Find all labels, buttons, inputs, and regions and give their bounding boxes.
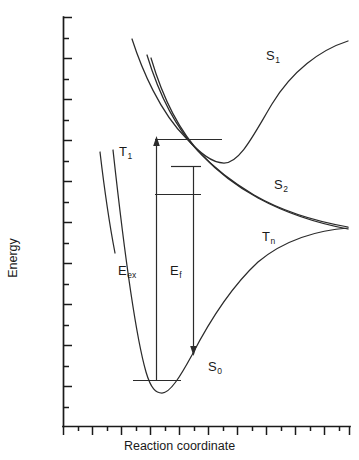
state-label-tn: Tn <box>262 230 275 243</box>
y-axis-label: Energy <box>6 238 20 278</box>
transition-label-eex: Eex <box>118 264 136 277</box>
arrow-eex-head <box>153 136 160 146</box>
curve-tn <box>151 58 348 229</box>
vibrational-levels-group <box>133 140 222 381</box>
arrow-ef-head <box>190 346 197 356</box>
energy-diagram-figure: S1 T1 S2 Tn S0 Eex Ef Energy Reaction co… <box>0 0 359 460</box>
curve-s0 <box>113 150 348 393</box>
transition-arrows-group <box>153 136 197 380</box>
curve-t1 <box>100 152 115 253</box>
potential-curves-group <box>100 39 348 393</box>
curve-s2 <box>147 55 348 227</box>
state-label-t1: T1 <box>119 145 132 158</box>
x-axis-label: Reaction coordinate <box>0 439 359 453</box>
transition-label-ef: Ef <box>170 264 181 277</box>
axes-group <box>63 17 350 435</box>
state-label-s0: S0 <box>208 360 221 373</box>
state-label-s1: S1 <box>266 49 279 62</box>
diagram-canvas <box>0 0 359 460</box>
state-label-s2: S2 <box>274 178 287 191</box>
